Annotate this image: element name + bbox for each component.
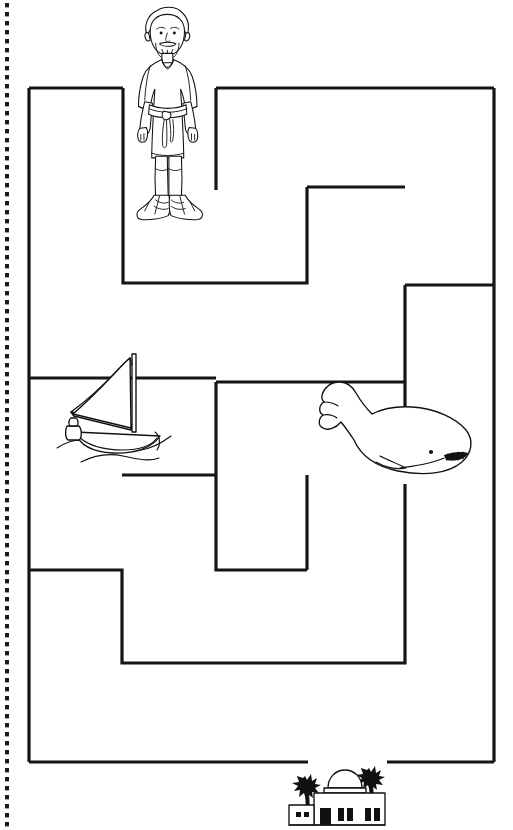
town-figure bbox=[0, 0, 513, 830]
maze-worksheet-page: Jonah and the Whale Maze Jonah standing … bbox=[0, 0, 513, 830]
